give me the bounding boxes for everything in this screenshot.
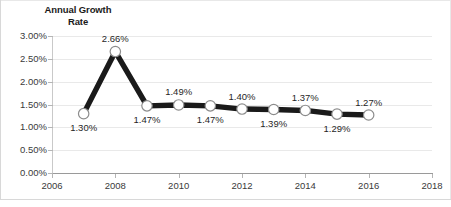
y-axis-label-0.00: 0.00% [3, 168, 47, 178]
y-axis-tick-2.00 [48, 82, 53, 83]
data-point-label-2010: 1.49% [156, 86, 202, 97]
x-axis-label-2010: 2010 [159, 180, 199, 191]
data-point-label-2013: 1.39% [251, 118, 297, 129]
x-axis-tick-2010 [179, 174, 180, 178]
data-point-label-2014: 1.37% [282, 92, 328, 103]
x-axis-tick-2012 [242, 174, 243, 178]
y-axis-labels: 3.00% 2.50% 2.00% 1.50% 1.00% 0.50% 0.00… [0, 0, 47, 207]
x-axis-tick-2016 [369, 174, 370, 178]
chart-border-bottom [0, 199, 451, 200]
gridline-y-2.50 [52, 59, 432, 60]
x-axis-label-2012: 2012 [222, 180, 262, 191]
data-point-label-2008: 2.66% [92, 33, 138, 44]
y-axis-label-2.00: 2.00% [3, 77, 47, 87]
data-point-label-2007: 1.30% [61, 122, 107, 133]
y-axis-label-2.50: 2.50% [3, 54, 47, 64]
gridline-y-1.00 [52, 127, 432, 128]
y-axis-label-0.50: 0.50% [3, 145, 47, 155]
data-point-label-2011: 1.47% [187, 114, 233, 125]
annual-growth-rate-chart: Annual Growth Rate 3.00% 2.50% 2.00% 1.5… [0, 0, 451, 207]
x-axis-tick-2018 [432, 174, 433, 178]
x-axis-tick-2006 [52, 174, 53, 178]
y-axis-tick-2.50 [48, 59, 53, 60]
x-axis-label-2008: 2008 [95, 180, 135, 191]
gridline-y-0.50 [52, 150, 432, 151]
x-axis-label-2006: 2006 [32, 180, 72, 191]
y-axis-tick-0.50 [48, 150, 53, 151]
data-point-label-2016: 1.27% [346, 97, 392, 108]
x-axis-label-2016: 2016 [349, 180, 389, 191]
x-axis-tick-2014 [305, 174, 306, 178]
y-axis-tick-3.00 [48, 36, 53, 37]
x-axis-tick-2008 [115, 174, 116, 178]
y-axis-tick-1.50 [48, 105, 53, 106]
y-axis-tick-1.00 [48, 127, 53, 128]
data-point-label-2012: 1.40% [219, 91, 265, 102]
y-axis-label-3.00: 3.00% [3, 31, 47, 41]
y-axis-label-1.50: 1.50% [3, 100, 47, 110]
x-axis-label-2014: 2014 [285, 180, 325, 191]
data-point-label-2015: 1.29% [314, 123, 360, 134]
y-axis-label-1.00: 1.00% [3, 122, 47, 132]
data-point-label-2009: 1.47% [124, 114, 170, 125]
chart-border-top [0, 0, 451, 1]
x-axis-label-2018: 2018 [412, 180, 451, 191]
gridline-y-2.00 [52, 82, 432, 83]
